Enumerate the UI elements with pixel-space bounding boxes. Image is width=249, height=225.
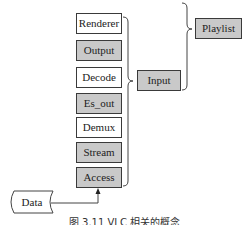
module-label: Stream [83,147,114,158]
brace-input-to-playlist [182,3,192,90]
module-label: Decode [82,72,116,83]
module-es-out: Es_out [76,93,122,114]
module-label: Es_out [84,98,115,109]
brace-modules-to-input [123,17,133,186]
input-box: Input [137,70,181,91]
module-output: Output [76,40,122,61]
module-stream: Stream [76,142,122,163]
playlist-label: Playlist [202,23,235,34]
data-label: Data [14,196,50,208]
figure-caption: 图 3.11 VLC 相关的概念 [0,214,249,225]
arrowhead-icon [96,188,101,194]
input-label: Input [147,75,170,86]
module-label: Output [84,45,115,56]
data-to-access-arrow [51,193,98,203]
module-label: Renderer [79,18,119,29]
playlist-box: Playlist [195,18,242,39]
module-demux: Demux [76,117,122,138]
module-access: Access [76,167,122,188]
module-decode: Decode [76,67,122,88]
module-label: Demux [83,122,115,133]
module-label: Access [83,172,114,183]
module-renderer: Renderer [76,13,122,34]
